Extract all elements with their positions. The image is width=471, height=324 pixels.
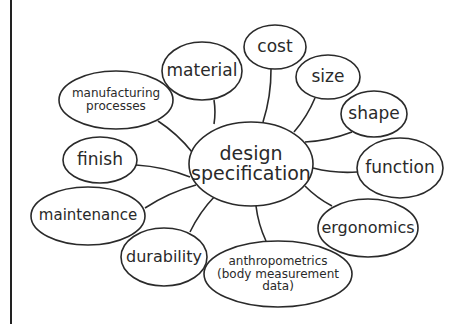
node-size: size <box>312 68 345 86</box>
node-label-line: ergonomics <box>321 220 414 237</box>
node-maintenance: maintenance <box>39 208 137 224</box>
node-label-line: data) <box>217 280 339 293</box>
connector-function <box>313 168 357 172</box>
node-label-line: anthropometrics <box>217 255 339 268</box>
connector-manufacturing-processes <box>158 121 192 152</box>
node-design-specification: designspecification <box>191 144 311 184</box>
connector-ergonomics <box>305 186 332 206</box>
node-anthropometrics: anthropometrics(body measurementdata) <box>217 255 339 293</box>
node-label-line: finish <box>77 151 123 169</box>
node-label-line: design <box>191 144 311 164</box>
node-manufacturing-processes: manufacturingprocesses <box>72 87 160 112</box>
node-label-line: processes <box>72 100 160 113</box>
node-label-line: function <box>365 159 434 177</box>
connector-maintenance <box>145 185 196 208</box>
connector-shape <box>305 132 352 142</box>
node-label-line: shape <box>348 105 399 123</box>
connector-durability <box>190 196 215 232</box>
connector-finish <box>136 165 190 177</box>
connector-cost <box>263 69 271 122</box>
node-durability: durability <box>126 249 202 266</box>
node-label-line: manufacturing <box>72 87 160 100</box>
node-label-line: size <box>312 68 345 86</box>
mind-map-diagram: materialcostsizeshapefunctionergonomicsa… <box>0 0 471 324</box>
node-label-line: material <box>167 62 238 80</box>
node-cost: cost <box>257 38 292 56</box>
connector-material <box>214 100 215 124</box>
connector-size <box>294 98 315 132</box>
node-label-line: specification <box>191 164 311 184</box>
node-ergonomics: ergonomics <box>321 220 414 237</box>
node-shape: shape <box>348 105 399 123</box>
node-function: function <box>365 159 434 177</box>
node-label-line: maintenance <box>39 208 137 224</box>
node-label-line: durability <box>126 249 202 266</box>
connector-anthropometrics <box>256 206 266 241</box>
node-material: material <box>167 62 238 80</box>
node-label-line: cost <box>257 38 292 56</box>
node-finish: finish <box>77 151 123 169</box>
